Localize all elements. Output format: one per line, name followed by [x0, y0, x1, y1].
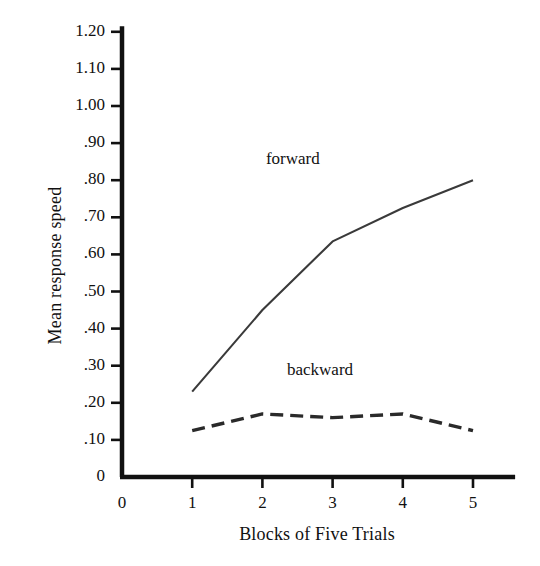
series-annotation-backward: backward	[287, 360, 353, 380]
y-tick-label-6: .60	[45, 243, 105, 263]
y-tick-label-0: 0	[45, 466, 105, 486]
y-tick-label-7: .70	[45, 206, 105, 226]
chart-figure: Mean response speed Blocks of Five Trial…	[0, 0, 540, 566]
y-tick-label-10: 1.00	[45, 95, 105, 115]
y-tick-label-11: 1.10	[45, 58, 105, 78]
x-tick-label-2: 2	[242, 493, 282, 513]
y-tick-label-3: .30	[45, 355, 105, 375]
y-tick-label-1: .10	[45, 429, 105, 449]
x-tick-label-0: 0	[102, 493, 142, 513]
y-tick-label-12: 1.20	[45, 21, 105, 41]
x-tick-label-3: 3	[313, 493, 353, 513]
y-tick-label-8: .80	[45, 169, 105, 189]
series-annotation-forward: forward	[266, 149, 320, 169]
x-tick-label-5: 5	[453, 493, 493, 513]
x-axis-label: Blocks of Five Trials	[122, 524, 512, 545]
y-tick-label-9: .90	[45, 132, 105, 152]
y-tick-label-4: .40	[45, 318, 105, 338]
y-tick-label-5: .50	[45, 281, 105, 301]
x-tick-label-4: 4	[383, 493, 423, 513]
x-tick-label-1: 1	[172, 493, 212, 513]
y-tick-label-2: .20	[45, 392, 105, 412]
